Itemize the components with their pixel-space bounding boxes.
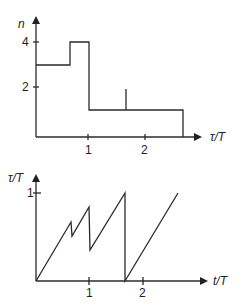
top-xtick-label-2: 2 bbox=[141, 143, 148, 157]
top-chart: n 4 2 1 2 τ/T bbox=[18, 17, 227, 157]
bottom-sawtooth-curve bbox=[36, 193, 178, 281]
top-ytick-label-2: 2 bbox=[22, 80, 29, 94]
bottom-xlabel: t/T bbox=[213, 274, 229, 288]
diagram-canvas: n 4 2 1 2 τ/T τ/T 1 1 2 t/T bbox=[0, 0, 242, 307]
top-ylabel: n bbox=[18, 17, 25, 31]
bottom-ylabel: τ/T bbox=[8, 171, 25, 185]
bottom-xtick-label-2: 2 bbox=[139, 286, 146, 300]
bottom-xtick-label-1: 1 bbox=[86, 286, 93, 300]
top-ytick-label-4: 4 bbox=[22, 35, 29, 49]
top-step-curve bbox=[36, 42, 183, 137]
top-xlabel: τ/T bbox=[210, 130, 227, 144]
bottom-ytick-label-1: 1 bbox=[27, 186, 34, 200]
top-xtick-label-1: 1 bbox=[85, 143, 92, 157]
bottom-chart: τ/T 1 1 2 t/T bbox=[8, 171, 229, 300]
